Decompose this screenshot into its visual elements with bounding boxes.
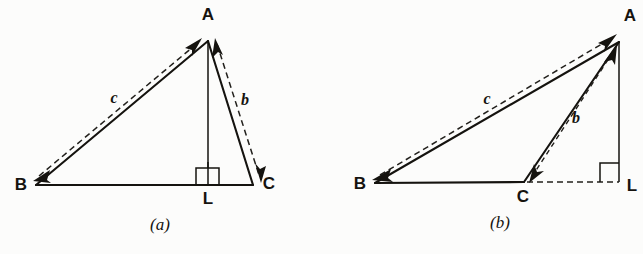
panel-a-side-label-c: c: [110, 89, 117, 106]
panel-a-vertex-label-a: A: [202, 5, 214, 24]
panel-b-vertex-label-a: A: [624, 6, 636, 25]
panel-b-vertex-label-l: L: [627, 176, 637, 195]
panel-b: A B C L c b (b): [354, 6, 637, 232]
panel-a-vector-c-shaft: [39, 41, 200, 176]
panel-b-side-label-c: c: [483, 90, 490, 107]
panel-a-caption: (a): [150, 215, 170, 234]
panel-a-vertex-label-b: B: [15, 175, 27, 194]
panel-b-vertex-label-c: C: [517, 187, 529, 206]
panel-b-side-ba: [375, 42, 619, 183]
panel-a-side-label-b: b: [241, 91, 249, 108]
panel-b-vector-b-arrowhead-c: [529, 164, 544, 183]
panel-b-side-label-b: b: [572, 109, 580, 126]
panel-b-caption: (b): [490, 213, 510, 232]
triangle-diagram-svg: A B C L c b (a): [0, 0, 643, 254]
figure-root: A B C L c b (a): [0, 0, 643, 254]
panel-a-vector-b-shaft: [217, 44, 259, 175]
panel-a-side-ba: [36, 41, 208, 185]
panel-b-right-angle-marker: [600, 163, 619, 182]
panel-a-side-ac: [208, 41, 253, 185]
panel-a-vector-c-arrowhead-b: [33, 170, 51, 183]
panel-b-side-bc: [375, 182, 524, 183]
panel-a-vertex-label-l: L: [203, 189, 213, 208]
panel-a-vertex-label-c: C: [263, 174, 275, 193]
panel-b-vertex-label-b: B: [354, 174, 366, 193]
panel-a: A B C L c b (a): [15, 5, 275, 234]
panel-a-vector-b-arrowhead-a: [212, 38, 223, 58]
